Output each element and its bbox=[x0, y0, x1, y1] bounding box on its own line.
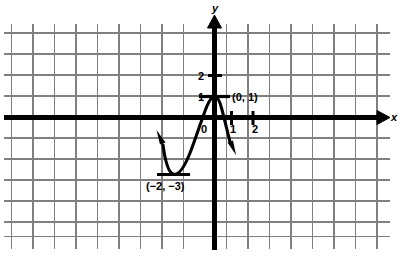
x-axis-arrowhead bbox=[377, 111, 390, 125]
graph-figure: y x 2 1 0 1 2 (0, 1) (−2, −3) bbox=[0, 0, 403, 265]
y-tick-label-1: 1 bbox=[198, 91, 204, 103]
y-axis-label: y bbox=[211, 2, 219, 14]
local-max-point-label: (0, 1) bbox=[232, 91, 258, 103]
curve-left-arrowhead bbox=[157, 130, 166, 145]
x-tick-label-2: 2 bbox=[252, 123, 258, 135]
coordinate-plane-svg: y x 2 1 0 1 2 (0, 1) (−2, −3) bbox=[0, 0, 403, 265]
x-tick-label-1: 1 bbox=[230, 123, 236, 135]
y-tick-label-2: 2 bbox=[198, 70, 204, 82]
local-min-point-label: (−2, −3) bbox=[146, 180, 185, 192]
origin-label: 0 bbox=[201, 123, 207, 135]
curve-group bbox=[157, 97, 237, 175]
x-axis-label: x bbox=[390, 111, 398, 123]
y-axis-arrowhead bbox=[208, 15, 222, 28]
curve-right-arrowhead bbox=[228, 141, 237, 156]
cubic-curve bbox=[163, 97, 230, 175]
